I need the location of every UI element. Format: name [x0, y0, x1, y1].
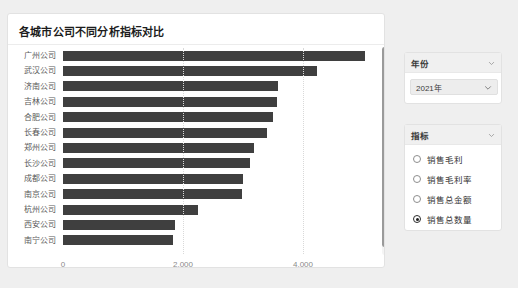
- category-label: 合肥公司: [8, 110, 60, 125]
- radio-unchecked-icon[interactable]: [413, 195, 421, 203]
- x-axis-ticks: 02,0004,000: [63, 260, 383, 268]
- bar-row[interactable]: [63, 79, 381, 94]
- bar[interactable]: [63, 235, 173, 245]
- category-label: 南京公司: [8, 187, 60, 202]
- metric-radio-option[interactable]: 销售毛利率: [405, 169, 501, 189]
- metric-panel-header[interactable]: 指标: [405, 125, 501, 145]
- bar-row[interactable]: [63, 217, 381, 232]
- category-label: 长春公司: [8, 125, 60, 140]
- bar[interactable]: [63, 97, 277, 107]
- metric-radio-label: 销售毛利: [427, 153, 463, 165]
- bar-row[interactable]: [63, 156, 381, 171]
- bar-row[interactable]: [63, 171, 381, 186]
- category-label: 杭州公司: [8, 202, 60, 217]
- metric-radio-label: 销售毛利率: [427, 173, 472, 185]
- bar[interactable]: [63, 174, 243, 184]
- bar-row[interactable]: [63, 202, 381, 217]
- x-axis-tick-label: 2,000: [173, 260, 193, 268]
- year-dropdown-value: 2021年: [416, 82, 442, 93]
- gridline: [303, 48, 304, 254]
- metric-radio-option[interactable]: 销售总金额: [405, 189, 501, 209]
- bar-chart-plot-area: 广州公司武汉公司济南公司吉林公司合肥公司长春公司郑州公司长沙公司成都公司南京公司…: [8, 45, 385, 268]
- app-root: 各城市公司不同分析指标对比 广州公司武汉公司济南公司吉林公司合肥公司长春公司郑州…: [0, 0, 518, 288]
- bar[interactable]: [63, 189, 242, 199]
- bar-row[interactable]: [63, 110, 381, 125]
- bar[interactable]: [63, 220, 175, 230]
- gridline: [183, 48, 184, 254]
- chevron-down-icon[interactable]: [488, 132, 495, 139]
- metric-radio-option[interactable]: 销售毛利: [405, 149, 501, 169]
- metric-panel-title: 指标: [411, 129, 429, 141]
- page-title: 各城市公司不同分析指标对比: [19, 23, 165, 39]
- bar[interactable]: [63, 158, 250, 168]
- metric-filter-panel: 指标 销售毛利销售毛利率销售总金额销售总数量: [404, 124, 502, 231]
- bar[interactable]: [63, 81, 278, 91]
- bar-series: [63, 48, 381, 256]
- bar-row[interactable]: [63, 233, 381, 248]
- bar-row[interactable]: [63, 63, 381, 78]
- category-label: 郑州公司: [8, 140, 60, 155]
- bar-row[interactable]: [63, 125, 381, 140]
- category-label: 西安公司: [8, 217, 60, 232]
- metric-radio-label: 销售总金额: [427, 193, 472, 205]
- category-axis-labels: 广州公司武汉公司济南公司吉林公司合肥公司长春公司郑州公司长沙公司成都公司南京公司…: [8, 48, 60, 248]
- bar[interactable]: [63, 143, 254, 153]
- bar[interactable]: [63, 205, 198, 215]
- year-dropdown[interactable]: 2021年: [410, 79, 498, 95]
- year-filter-panel: 年份 2021年: [404, 52, 502, 104]
- category-label: 武汉公司: [8, 63, 60, 78]
- bar-row[interactable]: [63, 94, 381, 109]
- bar-row[interactable]: [63, 187, 381, 202]
- chevron-down-icon[interactable]: [484, 84, 491, 91]
- category-label: 南宁公司: [8, 233, 60, 248]
- category-label: 广州公司: [8, 48, 60, 63]
- bar[interactable]: [63, 66, 317, 76]
- category-label: 吉林公司: [8, 94, 60, 109]
- x-axis-tick-label: 4,000: [293, 260, 313, 268]
- category-label: 长沙公司: [8, 156, 60, 171]
- bar[interactable]: [63, 112, 273, 122]
- bar[interactable]: [63, 128, 267, 138]
- metric-radio-group: 销售毛利销售毛利率销售总金额销售总数量: [405, 145, 501, 229]
- bar[interactable]: [63, 51, 365, 61]
- radio-checked-icon[interactable]: [413, 215, 421, 223]
- radio-unchecked-icon[interactable]: [413, 155, 421, 163]
- category-label: 成都公司: [8, 171, 60, 186]
- radio-unchecked-icon[interactable]: [413, 175, 421, 183]
- chart-card: 各城市公司不同分析指标对比 广州公司武汉公司济南公司吉林公司合肥公司长春公司郑州…: [7, 13, 385, 268]
- metric-radio-option[interactable]: 销售总数量: [405, 209, 501, 229]
- chevron-down-icon[interactable]: [488, 60, 495, 67]
- bar-row[interactable]: [63, 140, 381, 155]
- year-panel-title: 年份: [411, 57, 429, 69]
- x-axis-tick-label: 0: [61, 260, 65, 268]
- year-panel-header[interactable]: 年份: [405, 53, 501, 73]
- metric-radio-label: 销售总数量: [427, 213, 472, 225]
- bar-row[interactable]: [63, 48, 381, 63]
- category-label: 济南公司: [8, 79, 60, 94]
- chart-scrollbar-thumb[interactable]: [382, 47, 385, 247]
